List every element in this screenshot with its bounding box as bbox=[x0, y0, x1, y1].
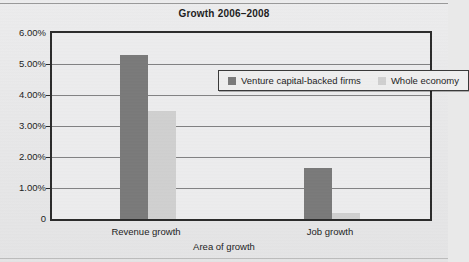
bar bbox=[304, 168, 332, 219]
legend-entry: Whole economy bbox=[378, 75, 459, 86]
chart-legend: Venture capital-backed firmsWhole econom… bbox=[218, 70, 469, 91]
gridline-2 bbox=[52, 157, 430, 158]
chart-title: Growth 2006–2008 bbox=[0, 8, 448, 19]
x-axis-category-label: Job growth bbox=[270, 226, 390, 237]
gridline-3 bbox=[52, 126, 430, 127]
legend-entry: Venture capital-backed firms bbox=[228, 75, 361, 86]
bottom-divider bbox=[0, 258, 448, 259]
gridline-5 bbox=[52, 64, 430, 65]
y-tick-label: 6.00% bbox=[2, 27, 46, 38]
bar bbox=[332, 213, 360, 219]
legend-swatch-icon bbox=[378, 77, 386, 85]
y-tick-label: 4.00% bbox=[2, 89, 46, 100]
legend-swatch-icon bbox=[228, 77, 236, 85]
y-tick-label: 2.00% bbox=[2, 151, 46, 162]
y-tick-label: 3.00% bbox=[2, 120, 46, 131]
gridline-4 bbox=[52, 95, 430, 96]
plot-area: Venture capital-backed firmsWhole econom… bbox=[50, 31, 432, 221]
top-divider bbox=[0, 3, 448, 4]
x-axis-category-label: Revenue growth bbox=[86, 226, 206, 237]
y-tick-label: 1.00% bbox=[2, 182, 46, 193]
bar bbox=[148, 111, 176, 220]
y-tick-label: 0 bbox=[2, 213, 46, 224]
gridline-1 bbox=[52, 188, 430, 189]
legend-label: Venture capital-backed firms bbox=[241, 75, 361, 86]
bar bbox=[120, 55, 148, 219]
x-axis-title: Area of growth bbox=[0, 241, 448, 252]
legend-label: Whole economy bbox=[391, 75, 459, 86]
y-tick-label: 5.00% bbox=[2, 58, 46, 69]
